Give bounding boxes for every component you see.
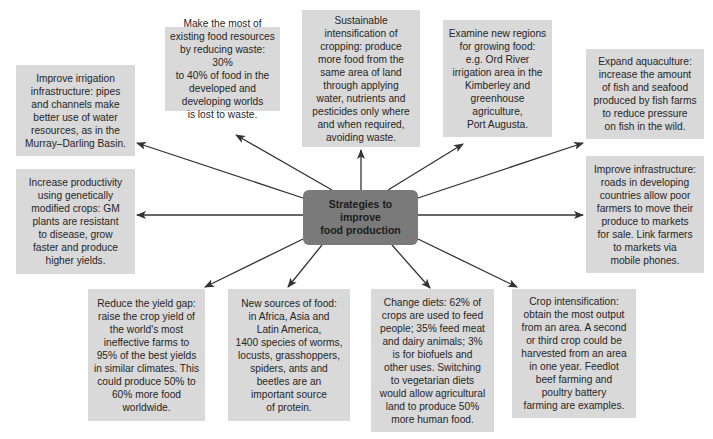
strategy-crop-intensification: Crop intensification: obtain the most ou…: [512, 289, 636, 418]
arrow-diets: [392, 245, 430, 288]
arrow-new-regions: [388, 144, 463, 190]
strategy-aquaculture: Expand aquaculture: increase the amount …: [586, 49, 704, 139]
strategy-new-sources: New sources of food: in Africa, Asia and…: [228, 289, 350, 421]
strategy-diets: Change diets: 62% of crops are used to f…: [371, 289, 494, 432]
strategy-waste: Make the most of existing food resources…: [165, 27, 280, 111]
strategy-infrastructure: Improve infrastructure: roads in develop…: [586, 156, 704, 273]
arrow-yield-gap: [205, 239, 303, 287]
central-topic: Strategies to improve food production: [303, 190, 418, 245]
strategy-sustainable: Sustainable intensification of cropping:…: [302, 10, 420, 147]
strategy-new-regions: Examine new regions for growing food: e.…: [443, 20, 552, 137]
arrow-new-sources: [288, 245, 322, 287]
strategy-gm-crops: Increase productivity using genetically …: [16, 169, 135, 274]
strategy-yield-gap: Reduce the yield gap: raise the crop yie…: [88, 289, 205, 421]
arrow-irrigation: [137, 143, 303, 198]
strategy-irrigation: Improve irrigation infrastructure: pipes…: [16, 65, 135, 156]
arrow-aquaculture: [418, 143, 583, 198]
arrow-crop-intensification: [418, 239, 517, 287]
